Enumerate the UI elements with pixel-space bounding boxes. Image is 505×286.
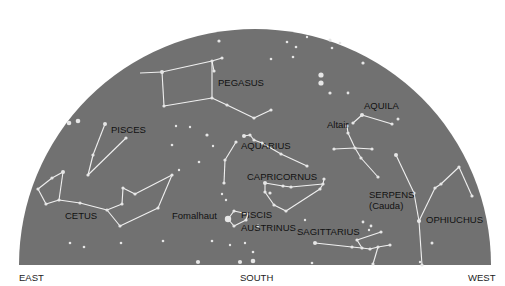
star-icon <box>248 133 251 136</box>
star-icon <box>268 191 271 194</box>
star-icon <box>304 219 306 221</box>
star-icon <box>390 122 393 125</box>
star-icon <box>120 242 123 245</box>
star-icon <box>232 224 235 227</box>
star-icon <box>103 122 107 126</box>
star-icon <box>205 133 208 136</box>
star-icon <box>91 153 94 156</box>
star-icon <box>229 244 231 246</box>
star-icon <box>347 92 350 95</box>
star-icon <box>156 206 159 209</box>
star-icon <box>225 103 228 106</box>
star-icon <box>221 193 223 195</box>
star-icon <box>272 203 275 206</box>
star-icon <box>210 96 213 99</box>
label-sagittarius: SAGITTARIUS <box>297 226 360 237</box>
star-icon <box>439 182 442 185</box>
label-aquila: AQUILA <box>364 100 400 111</box>
star-icon <box>318 187 321 190</box>
star-icon <box>306 36 308 38</box>
star-icon <box>270 58 273 61</box>
star-icon <box>120 202 123 205</box>
star-icon <box>44 202 47 205</box>
star-icon <box>370 225 373 228</box>
star-icon <box>350 245 353 248</box>
star-icon <box>362 221 365 224</box>
star-icon <box>295 46 298 49</box>
star-icon <box>118 224 121 227</box>
label-altair: Altair <box>327 119 349 130</box>
star-icon <box>124 136 127 139</box>
star-icon <box>223 158 226 161</box>
compass-directions: EASTSOUTHWEST <box>19 272 496 283</box>
star-icon <box>67 121 72 126</box>
star-icon <box>178 169 180 171</box>
label-piscis: PISCIS <box>241 209 272 220</box>
star-icon <box>242 134 246 138</box>
star-icon <box>198 161 201 164</box>
star-icon <box>457 165 460 168</box>
star-icon <box>397 118 400 121</box>
star-icon <box>212 145 214 147</box>
star-icon <box>286 41 289 44</box>
star-icon <box>289 185 292 188</box>
star-icon <box>332 147 335 150</box>
star-icon <box>232 209 235 212</box>
star-icon <box>370 147 373 150</box>
star-icon <box>322 177 325 180</box>
star-icon <box>321 182 324 185</box>
star-icon <box>36 187 39 190</box>
star-icon <box>346 131 349 134</box>
star-icon <box>420 263 423 266</box>
star-icon <box>388 243 391 246</box>
star-icon <box>328 91 331 94</box>
star-icon <box>417 219 421 223</box>
star-icon <box>360 246 363 249</box>
star-icon <box>78 201 81 204</box>
star-icon <box>61 170 65 174</box>
label-aquarius: AQUARIUS <box>241 140 291 151</box>
star-icon <box>251 259 256 264</box>
star-icon <box>217 39 220 42</box>
star-icon <box>244 242 246 244</box>
label-capricornus: CAPRICORNUS <box>247 171 317 182</box>
star-icon <box>121 186 124 189</box>
star-icon <box>360 113 364 117</box>
star-icon <box>238 260 242 264</box>
direction-west: WEST <box>468 272 496 283</box>
star-icon <box>379 230 382 233</box>
star-icon <box>470 194 473 197</box>
star-icon <box>331 47 334 50</box>
star-icon <box>419 261 421 263</box>
star-icon <box>50 176 53 179</box>
star-icon <box>162 240 165 243</box>
star-icon <box>171 144 174 147</box>
star-icon <box>431 242 434 245</box>
star-icon <box>162 104 165 107</box>
star-icon <box>263 190 266 193</box>
star-chart: PEGASUSPISCESCETUSAQUARIUSCAPRICORNUSPIS… <box>0 0 505 286</box>
star-icon <box>368 229 370 231</box>
star-icon <box>170 173 173 176</box>
star-icon <box>160 70 164 74</box>
star-icon <box>351 121 354 124</box>
star-icon <box>318 80 323 85</box>
star-icon <box>189 126 191 128</box>
star-icon <box>105 208 108 211</box>
star-icon <box>292 56 295 59</box>
direction-south: SOUTH <box>240 272 273 283</box>
star-icon <box>318 72 323 77</box>
star-icon <box>376 175 379 178</box>
star-icon <box>361 61 364 64</box>
star-icon <box>281 184 284 187</box>
star-icon <box>328 38 331 41</box>
star-icon <box>196 260 200 264</box>
label-fomalhaut: Fomalhaut <box>172 210 217 221</box>
star-icon <box>355 238 358 241</box>
star-icon <box>371 262 374 265</box>
star-icon <box>225 199 227 201</box>
star-icon <box>353 146 356 149</box>
star-icon <box>311 262 314 265</box>
star-icon <box>433 186 436 189</box>
star-icon <box>86 173 89 176</box>
